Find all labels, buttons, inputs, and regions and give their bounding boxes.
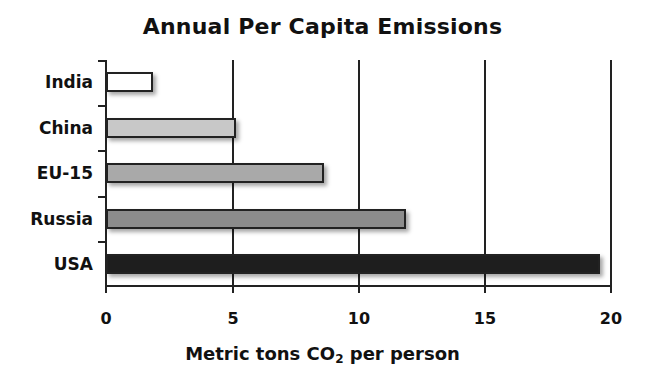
x-tick — [105, 285, 107, 293]
category-label-eu15: EU-15 — [37, 163, 93, 183]
x-tick-label-10: 10 — [348, 309, 370, 328]
bar-usa — [106, 254, 600, 274]
x-tick — [232, 285, 234, 293]
y-tick — [98, 241, 107, 243]
y-tick — [98, 60, 107, 62]
category-label-russia: Russia — [30, 209, 93, 229]
x-tick-label-15: 15 — [474, 309, 496, 328]
x-axis-label-tail: per person — [343, 343, 459, 364]
x-tick — [484, 285, 486, 293]
x-axis-label: Metric tons CO2 per person — [0, 343, 645, 366]
x-axis-label-main: Metric tons CO — [185, 343, 335, 364]
y-tick — [98, 105, 107, 107]
x-tick-label-20: 20 — [600, 309, 622, 328]
category-label-usa: USA — [54, 254, 93, 274]
y-tick — [98, 196, 107, 198]
category-label-china: China — [39, 118, 93, 138]
gridline-20 — [610, 60, 612, 293]
bar-india — [106, 72, 153, 92]
category-label-india: India — [45, 72, 93, 92]
bar-russia — [106, 209, 406, 229]
plot-area: India China EU-15 Russia USA 0 5 10 15 2… — [0, 0, 645, 380]
x-tick — [358, 285, 360, 293]
x-tick — [610, 285, 612, 293]
x-tick-label-0: 0 — [100, 309, 111, 328]
y-tick — [98, 150, 107, 152]
bar-china — [106, 118, 236, 138]
bar-eu15 — [106, 163, 324, 183]
x-tick-label-5: 5 — [227, 309, 238, 328]
